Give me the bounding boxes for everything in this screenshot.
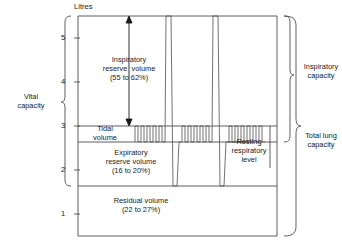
y-tick-label-4: 4: [61, 78, 65, 86]
inspiratory-capacity-brace: [284, 16, 294, 142]
inspiratory-reserve-volume-label: Inspiratory reserve volume (55 to 62%): [72, 55, 186, 83]
spirogram-figure: Litres 5 4 3 2 1 Vital capacity Inspirat…: [0, 0, 342, 252]
y-tick-label-3: 3: [61, 122, 65, 130]
y-tick-label-2: 2: [61, 166, 65, 174]
vital-capacity-label: Vital capacity: [2, 92, 60, 110]
axis-units-label: Litres: [74, 2, 93, 11]
y-tick-label-1: 1: [61, 210, 65, 218]
total-lung-capacity-label: Total lung capacity: [300, 131, 342, 149]
residual-volume-label: Residual volume (22 to 27%): [82, 196, 200, 214]
y-tick-label-5: 5: [61, 34, 65, 42]
expiratory-reserve-volume-label: Expiratory reserve volume (16 to 20%): [76, 148, 186, 176]
inspiratory-capacity-label: Inspiratory capacity: [300, 62, 342, 80]
total-lung-capacity-brace: [284, 16, 301, 236]
resting-respiratory-level-label: Resting respiratory level: [228, 137, 270, 165]
tidal-volume-label: Tidal volume: [80, 124, 130, 142]
